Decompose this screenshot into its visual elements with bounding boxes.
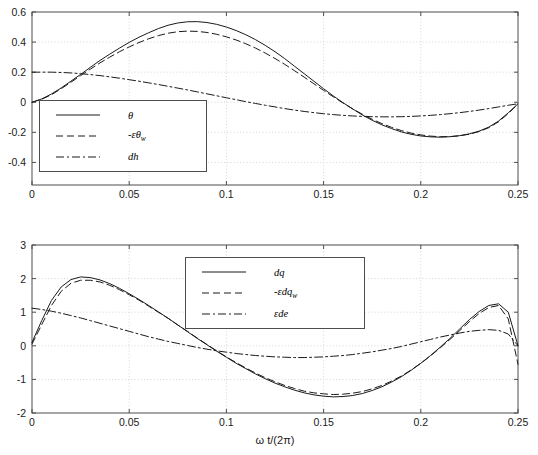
xtick-label: 0.2 (413, 416, 428, 428)
legend-label: dh (128, 151, 139, 162)
ytick-label: 0.4 (11, 36, 26, 48)
legend-item: εde (186, 305, 364, 323)
ytick-label: 3 (20, 239, 26, 251)
ytick-label: 0.6 (11, 6, 26, 18)
legend-label: θ (128, 110, 133, 121)
legend-item: θ (40, 106, 206, 124)
legend-line-swatch (54, 151, 102, 163)
x-axis-label: ω t/(2π) (256, 434, 295, 446)
ytick-label: -0.4 (8, 156, 26, 168)
ytick-label: 0 (20, 96, 26, 108)
xtick-label: 0.05 (119, 188, 140, 200)
ytick-label: 2 (20, 273, 26, 285)
xtick-label: 0.1 (219, 188, 234, 200)
legend-item: -εdqw (186, 284, 364, 302)
legend-item: dq (186, 263, 364, 281)
legend-item: dh (40, 148, 206, 166)
chart-canvas: 00.050.10.150.20.25-0.4-0.200.20.40.600.… (0, 0, 538, 455)
ytick-label: -2 (17, 407, 26, 419)
xtick-label: 0 (29, 416, 35, 428)
ytick-label: 1 (20, 306, 26, 318)
legend-label: -εdqw (274, 286, 297, 300)
ytick-label: 0 (20, 340, 26, 352)
legend-label: -εθw (128, 129, 146, 143)
xtick-label: 0.15 (313, 416, 334, 428)
legend-line-swatch (54, 109, 102, 121)
legend-line-swatch (200, 308, 248, 320)
legend-bottom-plot: dq-εdqwεde (185, 257, 365, 329)
figure-root: 00.050.10.150.20.25-0.4-0.200.20.40.600.… (0, 0, 538, 455)
xtick-label: 0.25 (508, 188, 529, 200)
xtick-label: 0.25 (508, 416, 529, 428)
xtick-label: 0.15 (313, 188, 334, 200)
legend-label: dq (274, 267, 285, 278)
ytick-label: -1 (17, 373, 26, 385)
xtick-label: 0.1 (219, 416, 234, 428)
legend-label: εde (274, 308, 288, 319)
ytick-label: 0.2 (11, 66, 26, 78)
xtick-label: 0.05 (119, 416, 140, 428)
legend-item: -εθw (40, 127, 206, 145)
legend-line-swatch (54, 130, 102, 142)
xtick-label: 0.2 (413, 188, 428, 200)
legend-line-swatch (200, 287, 248, 299)
ytick-label: -0.2 (8, 126, 26, 138)
legend-line-swatch (200, 266, 248, 278)
xtick-label: 0 (29, 188, 35, 200)
legend-top-plot: θ-εθwdh (39, 100, 207, 172)
